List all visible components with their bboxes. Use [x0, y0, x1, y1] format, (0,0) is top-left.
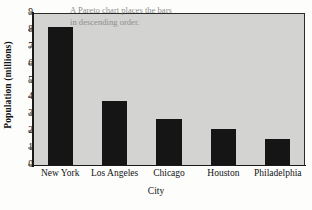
x-tick-label: Chicago [153, 168, 185, 178]
bar [48, 27, 73, 165]
y-axis-title-text: Population (millions) [3, 41, 13, 128]
plot-area [33, 13, 305, 165]
bar [265, 139, 290, 165]
annotation-line-1: A Pareto chart places the bars [70, 5, 172, 17]
x-tick-label: Philadelphia [254, 168, 302, 178]
y-axis-ticks: 0123456789 [14, 0, 33, 210]
annotation-line-2: in descending order. [70, 17, 172, 29]
x-tick-label: Houston [207, 168, 239, 178]
y-axis-line [32, 12, 34, 167]
bar [102, 101, 127, 165]
x-axis-title: City [0, 186, 312, 196]
x-axis-line [32, 165, 306, 167]
pareto-bar-chart-figure: Population (millions) 0123456789 A Paret… [0, 0, 312, 210]
bar [211, 129, 236, 165]
chart-annotation: A Pareto chart places the bars in descen… [70, 5, 172, 28]
x-tick-label: Los Angeles [91, 168, 138, 178]
x-tick-label: New York [41, 168, 80, 178]
bar [156, 119, 181, 165]
